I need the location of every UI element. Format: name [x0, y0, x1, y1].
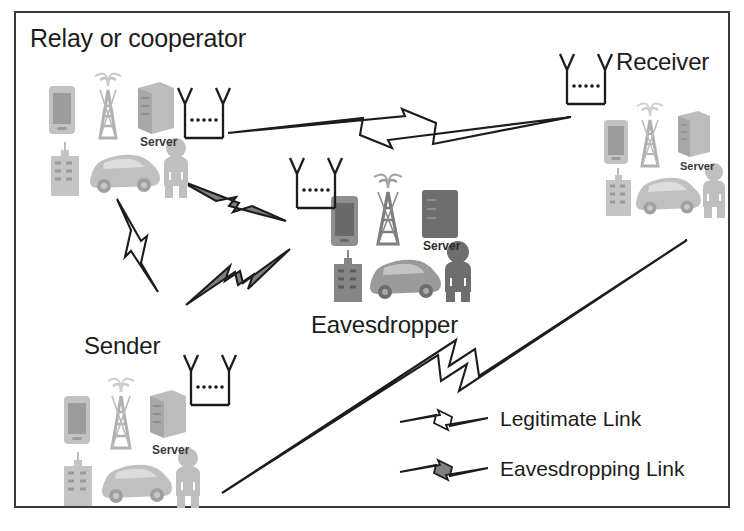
- group-label-sender: Sender: [84, 332, 160, 360]
- server-label-sender: Server: [152, 443, 190, 457]
- cell-tower-icon: [374, 175, 402, 244]
- building-icon: [606, 168, 631, 216]
- server-icon: [678, 111, 710, 157]
- server-label-eavesdropper: Server: [423, 239, 461, 253]
- group-label-receiver: Receiver: [616, 48, 709, 76]
- building-icon: [51, 142, 79, 196]
- antenna-sender: [178, 352, 248, 414]
- server-icon: [422, 190, 458, 238]
- legend-item-eavesdropping: Eavesdropping Link: [398, 456, 684, 482]
- lightning-bolt-hollow-icon: [398, 406, 490, 432]
- legend-item-legitimate: Legitimate Link: [398, 406, 641, 432]
- car-icon: [90, 155, 160, 193]
- group-label-relay: Relay or cooperator: [30, 24, 246, 53]
- server-icon: [138, 82, 174, 134]
- car-icon: [636, 178, 701, 215]
- antenna-eavesdropper: [284, 156, 354, 218]
- smartphone-icon: [604, 120, 628, 164]
- smartphone-icon: [64, 396, 90, 444]
- diagram-canvas: Relay or cooperator Receiver Eavesdroppe…: [0, 0, 744, 531]
- legend-label-eavesdropping: Eavesdropping Link: [500, 457, 684, 481]
- legend-label-legitimate: Legitimate Link: [500, 407, 641, 431]
- cell-tower-icon: [108, 379, 134, 448]
- antenna-receiver: [554, 50, 624, 112]
- device-cluster-receiver: Server: [600, 96, 740, 221]
- link-relay-to-receiver: [228, 109, 571, 148]
- building-icon: [64, 452, 92, 506]
- person-icon: [176, 448, 200, 508]
- building-icon: [334, 250, 362, 302]
- link-sender-to-relay: [117, 199, 158, 292]
- car-icon: [370, 260, 441, 299]
- link-sender-to-eavesdropper: [186, 249, 290, 305]
- lightning-bolt-filled-icon: [398, 456, 490, 482]
- server-label-receiver: Server: [680, 160, 715, 172]
- cell-tower-icon: [637, 104, 663, 166]
- car-icon: [102, 465, 172, 503]
- group-label-eavesdropper: Eavesdropper: [311, 311, 458, 339]
- smartphone-icon: [49, 86, 75, 134]
- antenna-relay: [172, 86, 242, 148]
- cell-tower-icon: [95, 74, 121, 138]
